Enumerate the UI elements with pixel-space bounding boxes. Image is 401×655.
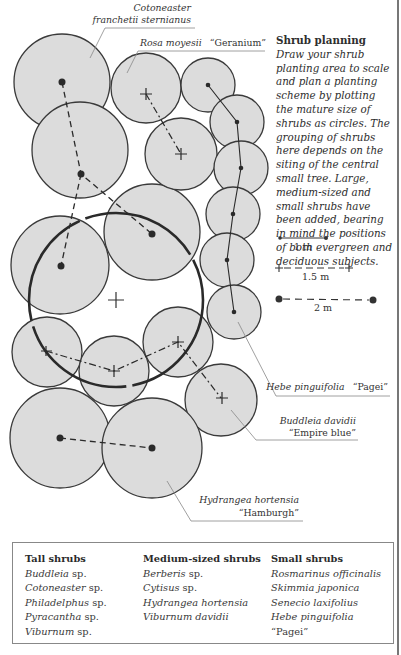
small-dot-marker xyxy=(206,83,211,88)
legend-item: Senecio laxifolius xyxy=(271,596,393,611)
small-dot-marker xyxy=(235,120,240,125)
legend-tall-shrubs: Tall shrubs Buddleia sp. Cotoneaster sp.… xyxy=(25,552,107,640)
legend-item: Viburnum sp. xyxy=(25,625,107,640)
shrub-legend-box: Tall shrubs Buddleia sp. Cotoneaster sp.… xyxy=(12,542,394,644)
label-hebe-species: Hebe pinguifolia xyxy=(265,381,344,392)
small-dot-marker xyxy=(232,310,237,315)
legend-item: Berberis sp. xyxy=(143,567,261,582)
description-text: Shrub planning Draw your shrub planting … xyxy=(276,34,394,269)
label-buddleia-2: “Empire blue” xyxy=(289,427,356,438)
label-hydrangea-2: “Hamburgh” xyxy=(239,507,299,518)
large-dot-marker xyxy=(58,263,65,270)
large-dot-marker xyxy=(149,445,156,452)
label-hebe-cultivar: “Pagei” xyxy=(353,381,388,392)
label-cotoneaster-2: franchetii sternianus xyxy=(92,14,192,25)
hebe-group xyxy=(181,58,268,339)
small-dot-marker xyxy=(239,166,244,171)
label-rosa: Rosa moyesii “Geranium” xyxy=(139,31,266,50)
legend-item: Viburnum davidii xyxy=(143,610,261,625)
legend-item: Cotoneaster sp. xyxy=(25,581,107,596)
legend-small-shrubs: Small shrubs Rosmarinus officinalis Skim… xyxy=(271,552,393,640)
label-hebe: Hebe pinguifolia “Pagei” xyxy=(265,375,388,394)
label-cotoneaster-1: Cotoneaster xyxy=(133,2,191,13)
large-dot-marker xyxy=(59,79,66,86)
legend-item: Pyracantha sp. xyxy=(25,610,107,625)
page-border xyxy=(397,0,399,655)
small-dot-marker xyxy=(231,212,236,217)
scale-label-2m: 2 m xyxy=(314,302,332,313)
legend-medium-shrubs: Medium-sized shrubs Berberis sp. Cytisus… xyxy=(143,552,261,625)
legend-item: Skimmia japonica xyxy=(271,581,393,596)
label-rosa-cultivar: “Geranium” xyxy=(210,37,266,48)
legend-item: Hydrangea hortensia xyxy=(143,596,261,611)
scale-label-1-5m: 1.5 m xyxy=(302,271,329,282)
legend-medium-title: Medium-sized shrubs xyxy=(143,552,261,567)
legend-item: Hebe pinguifolia “Pagei” xyxy=(271,610,393,639)
large-dot-marker xyxy=(149,231,156,238)
scale-2m: 2 m xyxy=(276,296,377,314)
small-dot-marker xyxy=(225,258,230,263)
legend-item: Philadelphus sp. xyxy=(25,596,107,611)
label-hydrangea-1: Hydrangea hortensia xyxy=(198,494,299,505)
shrub-circle xyxy=(32,102,128,198)
description-heading: Shrub planning xyxy=(276,34,366,46)
description-body: Draw your shrub planting area to scale a… xyxy=(276,48,392,267)
legend-tall-title: Tall shrubs xyxy=(25,552,107,567)
legend-item: Rosmarinus officinalis xyxy=(271,567,393,582)
label-rosa-species: Rosa moyesii xyxy=(139,37,202,48)
label-buddleia-1: Buddleia davidii xyxy=(279,415,356,426)
tree-center-cross xyxy=(108,292,124,308)
large-dot-marker xyxy=(78,171,85,178)
legend-item: Cytisus sp. xyxy=(143,581,261,596)
large-dot-marker xyxy=(57,435,64,442)
legend-item: Buddleia sp. xyxy=(25,567,107,582)
legend-small-title: Small shrubs xyxy=(271,552,393,567)
